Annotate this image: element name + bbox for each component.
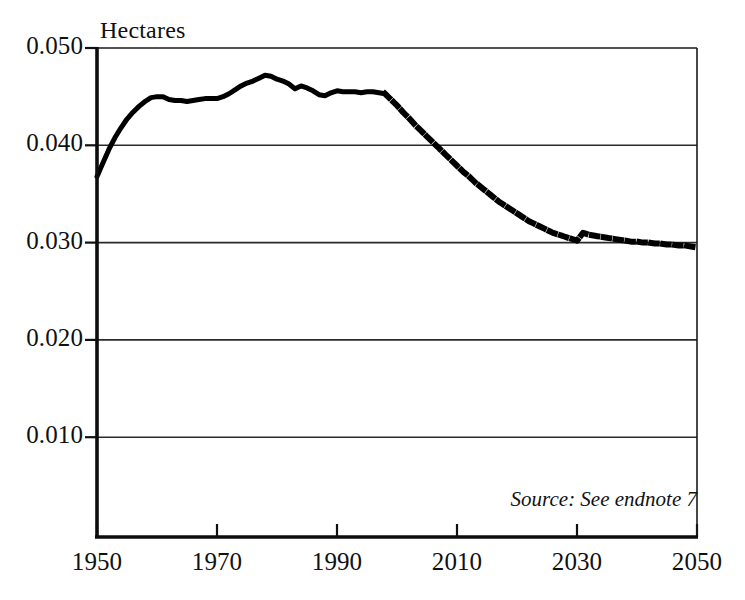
x-tick-label-2050: 2050 [642, 548, 745, 576]
x-tick-label-1950: 1950 [42, 548, 152, 576]
y-tick-label-0.020: 0.020 [0, 324, 83, 352]
series-line-projected [385, 94, 697, 248]
x-tick-label-1970: 1970 [162, 548, 272, 576]
y-tick-label-0.010: 0.010 [0, 421, 83, 449]
y-tick-label-0.030: 0.030 [0, 227, 83, 255]
x-tick-label-1990: 1990 [282, 548, 392, 576]
x-tick-label-2010: 2010 [402, 548, 512, 576]
source-note: Source: See endnote 7 [511, 487, 697, 512]
x-axis-ticks [97, 524, 697, 537]
y-tick-label-0.050: 0.050 [0, 32, 83, 60]
gridlines [97, 145, 697, 437]
x-tick-label-2030: 2030 [522, 548, 632, 576]
chart-figure: Hectares 0.0100.0200.0300.0400.050 19501… [0, 0, 745, 600]
series-line-historical [97, 75, 385, 176]
data-series-layer [97, 75, 697, 247]
y-tick-label-0.040: 0.040 [0, 129, 83, 157]
y-axis-title: Hectares [100, 17, 186, 44]
axis-frame [95, 47, 698, 538]
